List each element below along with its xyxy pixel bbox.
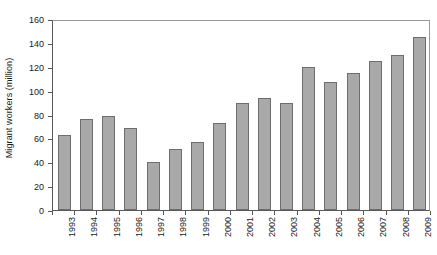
- x-tick-label: 1997: [156, 217, 166, 237]
- x-axis-tick-marks: [52, 211, 430, 216]
- x-tick-label: 1998: [178, 217, 188, 237]
- y-tick-label: 140: [29, 39, 44, 49]
- x-tick-mark: [96, 211, 97, 215]
- bar-chart: Migrant workers (million) 02040608010012…: [0, 0, 437, 255]
- x-tick-mark: [163, 211, 164, 215]
- y-tick-label: 80: [34, 111, 44, 121]
- bar: [369, 61, 382, 210]
- x-tick-mark: [74, 211, 75, 215]
- x-tick-mark: [119, 211, 120, 215]
- x-tick-label: 2000: [223, 217, 233, 237]
- x-tick-label: 1995: [112, 217, 122, 237]
- bar: [147, 162, 160, 210]
- bar: [391, 55, 404, 210]
- bar: [169, 149, 182, 210]
- x-tick-label: 2004: [312, 217, 322, 237]
- x-tick-label: 1999: [201, 217, 211, 237]
- x-axis-tick-labels: 1993199419951996199719981999200020012002…: [52, 217, 430, 255]
- bars-layer: [53, 21, 429, 210]
- bar: [236, 103, 249, 210]
- x-tick-mark: [252, 211, 253, 215]
- bar: [280, 103, 293, 210]
- y-tick-label: 0: [39, 206, 44, 216]
- x-tick-label: 2008: [401, 217, 411, 237]
- x-tick-mark: [230, 211, 231, 215]
- x-tick-mark: [408, 211, 409, 215]
- x-tick-mark: [341, 211, 342, 215]
- y-tick-label: 40: [34, 158, 44, 168]
- bar: [347, 73, 360, 210]
- y-tick-label: 20: [34, 182, 44, 192]
- x-tick-mark: [319, 211, 320, 215]
- x-tick-mark: [430, 211, 431, 215]
- y-tick-label: 100: [29, 87, 44, 97]
- x-tick-mark: [141, 211, 142, 215]
- y-tick-label: 120: [29, 63, 44, 73]
- x-tick-mark: [386, 211, 387, 215]
- x-tick-label: 2003: [289, 217, 299, 237]
- x-tick-mark: [297, 211, 298, 215]
- bar: [258, 98, 271, 210]
- x-tick-label: 2006: [356, 217, 366, 237]
- x-tick-label: 2009: [423, 217, 433, 237]
- bar: [213, 123, 226, 210]
- bar: [413, 37, 426, 210]
- y-axis-title-text: Migrant workers (million): [4, 57, 14, 158]
- bar: [124, 128, 137, 210]
- x-tick-mark: [274, 211, 275, 215]
- plot-area: [52, 20, 430, 211]
- y-tick-label: 60: [34, 134, 44, 144]
- x-tick-label: 2007: [378, 217, 388, 237]
- x-tick-label: 2002: [267, 217, 277, 237]
- bar: [80, 119, 93, 210]
- x-tick-label: 2005: [334, 217, 344, 237]
- x-tick-mark: [363, 211, 364, 215]
- x-tick-label: 1996: [134, 217, 144, 237]
- bar: [102, 116, 115, 210]
- bar: [191, 142, 204, 210]
- bar: [302, 67, 315, 210]
- x-tick-label: 2001: [245, 217, 255, 237]
- x-tick-mark: [52, 211, 53, 215]
- x-tick-mark: [208, 211, 209, 215]
- x-tick-label: 1994: [89, 217, 99, 237]
- y-axis-tick-labels: 020406080100120140160: [18, 20, 48, 211]
- bar: [58, 135, 71, 210]
- bar: [324, 82, 337, 210]
- y-axis-title: Migrant workers (million): [0, 0, 18, 215]
- x-tick-mark: [185, 211, 186, 215]
- y-tick-label: 160: [29, 15, 44, 25]
- x-tick-label: 1993: [67, 217, 77, 237]
